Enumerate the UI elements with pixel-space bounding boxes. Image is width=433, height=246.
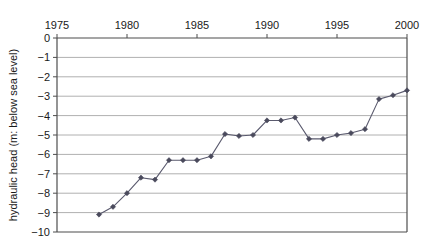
chart-canvas: 197519801985199019952000 0−1−2−3−4−5−6−7… <box>0 0 433 246</box>
hydraulic-head-chart: 197519801985199019952000 0−1−2−3−4−5−6−7… <box>0 0 433 246</box>
y-tick-label: −3 <box>37 90 50 102</box>
y-axis-title: hydraulic head (m: below sea level) <box>7 49 19 221</box>
y-tick-label: −7 <box>37 168 50 180</box>
y-tick-label: −5 <box>37 129 50 141</box>
x-tick-label: 2000 <box>395 19 419 31</box>
y-tick-label: −8 <box>37 187 50 199</box>
y-tick-label: −4 <box>37 110 50 122</box>
x-tick-label: 1990 <box>255 19 279 31</box>
y-tick-label: −2 <box>37 71 50 83</box>
y-tick-label: −9 <box>37 207 50 219</box>
x-tick-label: 1995 <box>325 19 349 31</box>
x-tick-label: 1985 <box>185 19 209 31</box>
y-tick-label: 0 <box>44 32 50 44</box>
y-tick-label: −6 <box>37 148 50 160</box>
y-tick-label: −1 <box>37 51 50 63</box>
x-tick-label: 1980 <box>115 19 139 31</box>
y-tick-label: −10 <box>31 226 50 238</box>
x-tick-label: 1975 <box>45 19 69 31</box>
